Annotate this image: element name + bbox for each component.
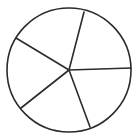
spoke-upper-left — [16, 38, 69, 70]
diagram-canvas — [0, 0, 137, 137]
spoke-bottom-right — [69, 70, 90, 127]
spoke-right — [69, 68, 131, 70]
divided-circle-diagram — [0, 0, 137, 137]
spoke-top — [69, 12, 84, 70]
sector-dividers — [16, 12, 131, 127]
spoke-bottom-left — [21, 70, 69, 108]
